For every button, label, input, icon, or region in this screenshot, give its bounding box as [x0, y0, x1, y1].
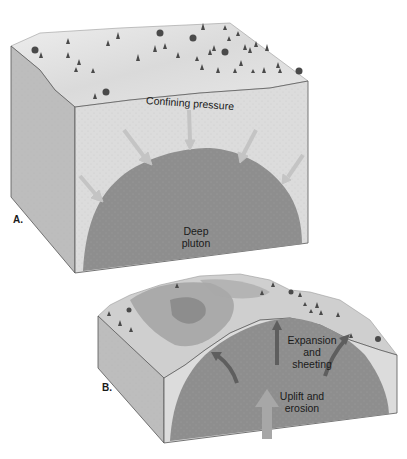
- uplift-label-line1: Uplift and: [280, 390, 325, 402]
- block-b: Expansion and sheeting Uplift and erosio…: [98, 274, 397, 443]
- pluton-diagram: Confining pressure Deep pluton A.: [0, 0, 407, 459]
- panel-label-b: B.: [102, 382, 112, 393]
- tree-icon: [296, 68, 303, 75]
- tree-icon: [32, 47, 39, 54]
- tree-icon: [103, 89, 110, 96]
- tree-icon: [157, 30, 164, 37]
- expansion-label-line1: Expansion: [287, 334, 336, 346]
- tree-icon: [222, 49, 229, 56]
- tree-icon: [375, 336, 381, 342]
- deep-pluton-label-line2: pluton: [182, 237, 211, 249]
- tree-icon: [289, 290, 294, 295]
- block-a: Confining pressure Deep pluton A.: [11, 23, 308, 273]
- tree-icon: [190, 35, 197, 42]
- panel-label-a: A.: [13, 214, 23, 225]
- expansion-label-line3: sheeting: [292, 358, 332, 370]
- deep-pluton-label-line1: Deep: [183, 225, 208, 237]
- expansion-label-line2: and: [303, 346, 321, 358]
- tree-icon: [265, 44, 269, 51]
- tree-icon: [127, 308, 132, 313]
- uplift-label-line2: erosion: [285, 402, 320, 414]
